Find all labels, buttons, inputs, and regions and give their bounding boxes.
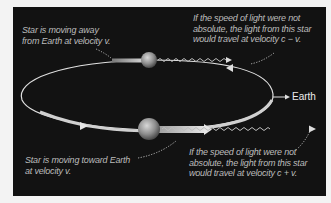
star-receding [141, 52, 157, 68]
earth-pointer-arrow [285, 95, 290, 100]
star-approaching [138, 118, 160, 140]
label-star-toward: Star is moving toward Earth at velocity … [25, 155, 130, 176]
callout-leader-star-away [96, 49, 111, 58]
wave-arrow-top [226, 57, 232, 63]
callout-leader-star-toward [138, 141, 176, 158]
label-light-away: If the speed of light were not absolute,… [193, 13, 311, 45]
wave-arrow-bottom [309, 126, 316, 133]
label-star-away: Star is moving away from Earth at veloci… [22, 25, 110, 46]
label-earth: Earth [292, 91, 316, 102]
label-light-toward: If the speed of light were not absolute,… [189, 147, 307, 179]
callout-leader-light-away [250, 53, 274, 64]
orbit-direction-arrow-bottom [80, 122, 88, 130]
motion-trail-receding [112, 59, 142, 63]
